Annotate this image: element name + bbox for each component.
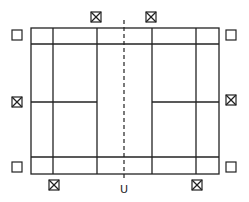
badminton-court-diagram: U [0, 0, 249, 202]
crossed-box-marker [192, 180, 202, 190]
crossed-box-marker [49, 180, 59, 190]
empty-box-marker [12, 162, 22, 172]
crossed-box-marker [12, 97, 22, 107]
crossed-box-marker [226, 95, 236, 105]
court [31, 20, 219, 180]
umpire-label: U [120, 183, 128, 196]
crossed-box-marker [91, 12, 101, 22]
empty-box-marker [226, 30, 236, 40]
empty-box-marker [226, 162, 236, 172]
court-outer-boundary [31, 28, 219, 174]
crossed-box-marker [146, 12, 156, 22]
empty-box-marker [12, 30, 22, 40]
